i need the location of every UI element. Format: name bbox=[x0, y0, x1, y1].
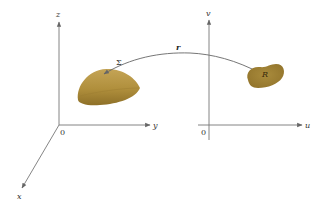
z-axis-label: z bbox=[55, 10, 61, 19]
v-axis-label: v bbox=[206, 9, 211, 18]
surface-sigma bbox=[78, 69, 140, 105]
x-axis bbox=[22, 125, 59, 188]
mapping-curve: r bbox=[104, 42, 262, 74]
xyz-axes: z y x 0 bbox=[17, 10, 158, 201]
parametric-surface-diagram: z y x 0 r Σ v u 0 R bbox=[0, 0, 326, 209]
u-axis-label: u bbox=[305, 121, 310, 130]
x-axis-label: x bbox=[17, 192, 22, 201]
region-label: R bbox=[261, 70, 268, 79]
surface-label: Σ bbox=[116, 58, 122, 67]
y-axis-label: y bbox=[152, 121, 158, 130]
origin-label-left: 0 bbox=[60, 128, 65, 137]
origin-label-right: 0 bbox=[201, 128, 206, 137]
region-r: R bbox=[247, 64, 284, 88]
mapping-label: r bbox=[176, 42, 181, 52]
